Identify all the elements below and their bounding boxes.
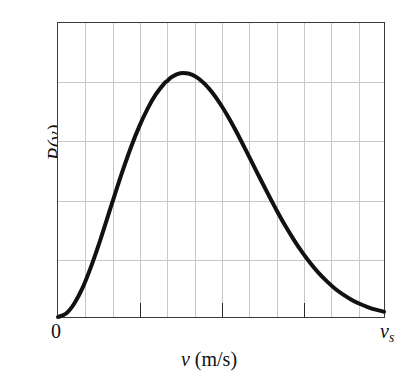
figure-root: P(v) 0 vs v (m/s) xyxy=(0,0,418,384)
x-axis-label-units: (m/s) xyxy=(195,348,237,370)
x-axis-origin-label: 0 xyxy=(51,320,61,343)
plot-area xyxy=(57,22,385,318)
x-axis-label-symbol: v xyxy=(181,348,190,370)
x-axis-max-label: vs xyxy=(380,320,394,346)
distribution-curve-svg xyxy=(58,23,384,317)
distribution-curve xyxy=(58,73,384,317)
x-axis-max-label-subscript: s xyxy=(389,330,394,345)
x-axis-label: v (m/s) xyxy=(0,348,418,371)
x-axis-max-label-base: v xyxy=(380,320,389,342)
